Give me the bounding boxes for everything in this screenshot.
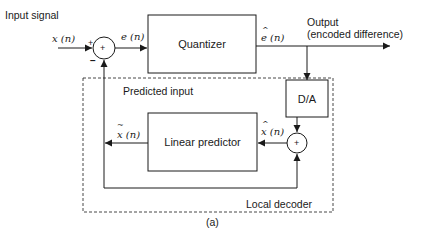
reconstructed-symbol: x (n) (261, 126, 284, 138)
linear-predictor-label: Linear predictor (148, 113, 257, 171)
sum1-symbol: + (100, 42, 105, 54)
predicted-signal-symbol: x (n) (117, 129, 140, 141)
quantized-error-char: e (261, 32, 267, 44)
input-symbol: x (n) (52, 33, 75, 45)
quantized-error-rest: (n) (267, 32, 284, 43)
error-symbol: e (n) (121, 31, 144, 43)
sum1-minus-sign: − (90, 55, 96, 67)
output-label-line2: (encoded difference) (307, 28, 403, 40)
figure-caption: (a) (206, 216, 219, 228)
local-decoder-label: Local decoder (246, 198, 312, 210)
sum2-symbol: + (294, 137, 299, 149)
sum1-plus-sign: + (88, 37, 93, 49)
reconstructed-char: x (261, 126, 267, 138)
error-symbol-rest: (n) (127, 31, 144, 42)
reconstructed-rest: (n) (267, 126, 284, 137)
da-label: D/A (286, 80, 328, 117)
output-label-line1: Output (307, 16, 339, 28)
predicted-signal-char: x (117, 129, 123, 141)
predicted-signal-rest: (n) (123, 129, 140, 140)
quantizer-label: Quantizer (148, 15, 256, 73)
quantized-error-symbol: e (n) (261, 32, 284, 44)
input-signal-label: Input signal (5, 9, 59, 21)
predicted-input-label: Predicted input (123, 85, 193, 97)
